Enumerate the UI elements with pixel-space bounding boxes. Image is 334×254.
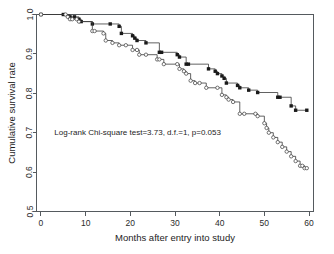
- logrank-annotation: Log-rank Chi-square test=3.73, d.f.=1, p…: [54, 128, 221, 137]
- marker-group-2: [138, 53, 141, 56]
- marker-group-2: [93, 29, 96, 32]
- marker-group-2: [231, 100, 234, 103]
- step-line-group-1: [41, 15, 307, 111]
- marker-group-2: [267, 131, 270, 134]
- marker-group-1: [144, 41, 147, 44]
- plot-frame: [37, 15, 314, 212]
- x-tick-label: 0: [39, 218, 44, 228]
- marker-group-2: [135, 48, 138, 51]
- y-tick-label: 0.6: [25, 166, 35, 178]
- marker-group-1: [160, 51, 163, 54]
- series-layer: [39, 13, 308, 170]
- marker-group-2: [162, 62, 165, 65]
- marker-group-2: [178, 67, 181, 70]
- marker-group-2: [305, 166, 308, 169]
- marker-group-1: [222, 77, 225, 80]
- marker-group-2: [294, 159, 297, 162]
- marker-group-1: [120, 32, 123, 35]
- marker-group-2: [238, 112, 241, 115]
- marker-group-2: [227, 98, 230, 101]
- y-tick-label: 0.9: [25, 48, 35, 60]
- marker-group-2: [111, 41, 114, 44]
- marker-group-1: [216, 72, 219, 75]
- x-tick-label: 40: [215, 218, 225, 228]
- y-tick-label: 0.5: [25, 205, 35, 217]
- marker-group-1: [207, 67, 210, 70]
- x-tick-label: 10: [81, 218, 91, 228]
- y-tick-label: 0.7: [25, 127, 35, 139]
- marker-group-2: [276, 140, 279, 143]
- marker-group-2: [39, 13, 42, 16]
- marker-group-2: [77, 20, 80, 23]
- x-tick-label: 50: [260, 218, 270, 228]
- marker-group-2: [104, 39, 107, 42]
- marker-group-1: [278, 96, 281, 99]
- survival-chart-figure: 01020304050600.50.60.70.80.91.0 Log-rank…: [0, 0, 334, 254]
- marker-group-1: [247, 88, 250, 91]
- marker-group-2: [71, 18, 74, 21]
- marker-group-1: [238, 86, 241, 89]
- marker-group-2: [272, 136, 275, 139]
- marker-group-2: [189, 79, 192, 82]
- marker-group-1: [225, 81, 228, 84]
- x-axis-title: Months after entry into study: [115, 232, 235, 243]
- x-tick-label: 60: [304, 218, 314, 228]
- x-tick-label: 30: [170, 218, 180, 228]
- y-tick-label: 0.8: [25, 87, 35, 99]
- marker-group-2: [205, 86, 208, 89]
- marker-group-1: [117, 25, 120, 28]
- marker-group-1: [135, 39, 138, 42]
- marker-group-1: [294, 109, 297, 112]
- marker-group-1: [289, 104, 292, 107]
- marker-group-2: [216, 86, 219, 89]
- annotation-layer: Log-rank Chi-square test=3.73, d.f.=1, p…: [54, 128, 221, 137]
- marker-group-2: [102, 32, 105, 35]
- marker-group-2: [289, 155, 292, 158]
- y-axis-title: Cumulative survival rate: [6, 62, 17, 163]
- marker-group-1: [256, 91, 259, 94]
- marker-group-2: [265, 126, 268, 129]
- axes: 01020304050600.50.60.70.80.91.0: [25, 8, 315, 227]
- marker-group-2: [176, 62, 179, 65]
- marker-group-2: [193, 81, 196, 84]
- marker-group-2: [263, 122, 266, 125]
- marker-group-2: [256, 114, 259, 117]
- marker-group-2: [220, 93, 223, 96]
- marker-group-2: [144, 53, 147, 56]
- marker-group-1: [305, 109, 308, 112]
- step-line-group-2: [41, 15, 307, 169]
- x-tick-label: 20: [126, 218, 136, 228]
- marker-group-1: [187, 62, 190, 65]
- marker-group-2: [198, 81, 201, 84]
- marker-group-2: [131, 48, 134, 51]
- marker-group-2: [124, 44, 127, 47]
- marker-group-2: [243, 112, 246, 115]
- marker-group-2: [281, 145, 284, 148]
- marker-group-1: [109, 22, 112, 25]
- marker-group-2: [158, 58, 161, 61]
- marker-group-2: [184, 72, 187, 75]
- marker-group-1: [178, 55, 181, 58]
- axis-titles: Months after entry into studyCumulative …: [6, 62, 235, 243]
- plot-canvas: 01020304050600.50.60.70.80.91.0 Log-rank…: [0, 0, 334, 254]
- marker-group-2: [117, 44, 120, 47]
- marker-group-2: [285, 150, 288, 153]
- y-tick-label: 1.0: [25, 8, 35, 20]
